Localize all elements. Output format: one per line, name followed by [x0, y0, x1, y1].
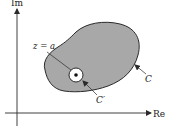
point-a-dot: [74, 73, 78, 77]
outer-contour-pointer: [135, 65, 146, 74]
contour-diagram: Im Re z = a C′ C: [0, 0, 172, 130]
y-axis-label: Im: [11, 0, 24, 8]
point-label: z = a: [32, 41, 55, 51]
inner-contour-label: C′: [96, 95, 105, 105]
outer-contour-region: [44, 22, 139, 92]
outer-contour-label: C: [145, 74, 152, 84]
x-axis-label: Re: [153, 109, 165, 119]
